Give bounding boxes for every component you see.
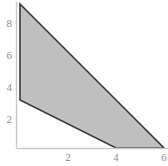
chart-figure: 8 6 4 2 2 4 6	[0, 0, 168, 166]
y-tick-label-2: 2	[0, 114, 12, 125]
x-tick-label-6: 6	[157, 152, 168, 163]
y-tick-label-8: 8	[0, 18, 12, 29]
shaded-region-polygon	[20, 4, 164, 148]
chart-plot-area	[0, 0, 168, 166]
y-tick-label-6: 6	[0, 50, 12, 61]
x-tick-label-4: 4	[109, 152, 123, 163]
y-tick-label-4: 4	[0, 82, 12, 93]
x-tick-label-2: 2	[61, 152, 75, 163]
